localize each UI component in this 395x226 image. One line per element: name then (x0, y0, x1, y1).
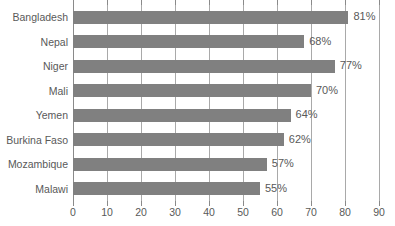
bar-band: 57% (73, 152, 379, 177)
xtick-label-40: 40 (194, 205, 224, 219)
bar-chart: BangladeshNepalNigerMaliYemenBurkina Fas… (0, 0, 395, 226)
bar-band: 81% (73, 5, 379, 30)
bar-band: 77% (73, 54, 379, 79)
bar-value-label: 64% (296, 104, 318, 124)
xtick-label-10: 10 (92, 205, 122, 219)
xtick-label-0: 0 (58, 205, 88, 219)
bar-band: 55% (73, 177, 379, 202)
bar-value-label: 57% (272, 153, 294, 173)
category-label-niger: Niger (0, 56, 68, 76)
xtick-label-20: 20 (126, 205, 156, 219)
xtick-label-80: 80 (330, 205, 360, 219)
bar-niger (73, 60, 335, 73)
xtick-label-30: 30 (160, 205, 190, 219)
plot-area: 81%68%77%70%64%62%57%55% (73, 5, 379, 201)
bar-value-label: 55% (265, 178, 287, 198)
gridline-90 (379, 5, 380, 201)
xtick-label-90: 90 (364, 205, 394, 219)
bar-mozambique (73, 158, 267, 171)
category-label-mozambique: Mozambique (0, 154, 68, 174)
xtick-label-60: 60 (262, 205, 292, 219)
bar-band: 64% (73, 103, 379, 128)
bar-malawi (73, 182, 260, 195)
bar-burkina-faso (73, 133, 284, 146)
category-axis: BangladeshNepalNigerMaliYemenBurkina Fas… (0, 5, 68, 201)
category-label-mali: Mali (0, 81, 68, 101)
bar-bangladesh (73, 11, 348, 24)
bar-band: 62% (73, 128, 379, 153)
tick-top-90 (379, 0, 380, 5)
bar-value-label: 81% (353, 6, 375, 26)
bar-value-label: 70% (316, 80, 338, 100)
bar-value-label: 77% (340, 55, 362, 75)
category-label-burkina-faso: Burkina Faso (0, 130, 68, 150)
category-label-malawi: Malawi (0, 179, 68, 199)
category-label-nepal: Nepal (0, 32, 68, 52)
bar-mali (73, 84, 311, 97)
bar-band: 70% (73, 79, 379, 104)
xtick-label-50: 50 (228, 205, 258, 219)
bar-value-label: 62% (289, 129, 311, 149)
category-label-yemen: Yemen (0, 105, 68, 125)
bar-band: 68% (73, 30, 379, 55)
category-label-bangladesh: Bangladesh (0, 7, 68, 27)
bar-nepal (73, 35, 304, 48)
xtick-label-70: 70 (296, 205, 326, 219)
bar-value-label: 68% (309, 31, 331, 51)
bars: 81%68%77%70%64%62%57%55% (73, 5, 379, 201)
bar-yemen (73, 109, 291, 122)
